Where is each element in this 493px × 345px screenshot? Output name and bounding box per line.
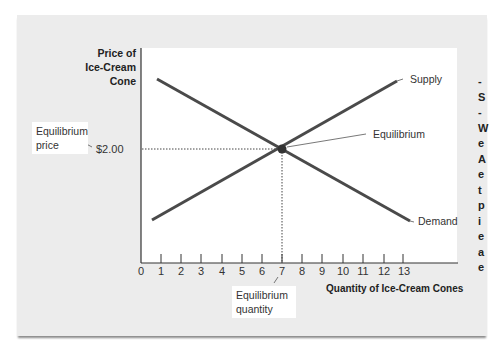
equilibrium-label: Equilibrium [373,128,425,140]
x-tick-label: 10 [337,265,349,277]
supply-label: Supply [410,73,442,85]
x-tick-label: 9 [319,265,325,277]
x-tick-label: 2 [178,265,184,277]
x-tick-label: 0 [138,265,144,277]
supply-leader [397,79,403,81]
side-text-char: t [478,183,493,199]
x-tick-label: 6 [259,265,265,277]
side-text-char: - [478,74,493,90]
side-text-char: S [478,90,493,106]
demand-leader [410,221,414,222]
callout-line: Equilibrium [236,288,292,302]
x-tick-label: 3 [198,265,204,277]
side-text-char: p [478,198,493,214]
side-text-char: i [478,214,493,230]
equilibrium-quantity-callout: Equilibrium quantity [232,286,296,318]
side-text-char: A [478,152,493,168]
side-text-char: a [478,245,493,261]
side-text-char: e [478,229,493,245]
side-text-char: W [478,121,493,137]
callout-line: price [36,138,84,152]
equilibrium-price-callout: Equilibrium price [32,122,88,154]
x-tick-label: 7 [279,265,285,277]
price-tick-label: $2.00 [96,143,124,155]
supply-curve [152,81,397,220]
x-tick-label: 5 [239,265,245,277]
x-axis-label: Quantity of Ice-Cream Cones [326,283,463,294]
x-tick-label: 11 [357,265,368,277]
x-tick-label: 1 [158,265,164,277]
x-tick-label: 13 [398,265,410,277]
demand-label: Demand [418,215,458,227]
quantity-leader [274,277,278,283]
side-caption-fragment: - S - W e A e t p i e a e [478,74,493,276]
callout-line: quantity [236,302,292,316]
x-tick-label: 4 [219,265,225,277]
side-text-char: e [478,260,493,276]
x-tick-label: 8 [299,265,305,277]
equilibrium-point [278,145,287,154]
callout-line: Equilibrium [36,124,84,138]
side-text-char: - [478,105,493,121]
side-text-char: e [478,167,493,183]
side-text-char: e [478,136,493,152]
x-tick-label: 12 [378,265,390,277]
